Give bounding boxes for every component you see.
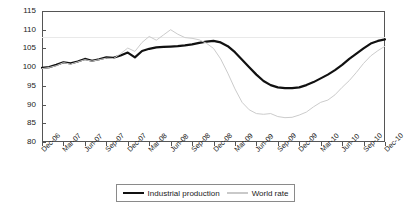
y-axis-tick-label: 115 (12, 7, 36, 15)
series-lines (42, 11, 385, 142)
y-axis-tick-label: 80 (12, 138, 36, 146)
y-axis-tick-label: 105 (12, 44, 36, 52)
legend-swatch-industrial-production-icon (123, 192, 144, 195)
chart-container: 80859095100105110115 Dec-06Mar-07Jun-07S… (0, 0, 406, 208)
legend-label-industrial-production: Industrial production (148, 189, 220, 198)
legend-item-world-rate: World rate (227, 189, 289, 198)
legend-label-world-rate: World rate (252, 189, 289, 198)
series-line-world-rate (42, 30, 385, 118)
y-axis-tick-label: 100 (12, 63, 36, 71)
legend-swatch-world-rate-icon (227, 192, 248, 193)
legend-item-industrial-production: Industrial production (123, 189, 220, 198)
y-axis-tick-label: 110 (12, 26, 36, 34)
y-axis-tick-label: 90 (12, 101, 36, 109)
series-line-industrial-production (42, 39, 385, 88)
y-axis-tick-label: 85 (12, 119, 36, 127)
y-axis-tick-label: 95 (12, 82, 36, 90)
legend: Industrial production World rate (116, 184, 295, 202)
x-axis-tick-label: Dec-10 (383, 132, 405, 154)
